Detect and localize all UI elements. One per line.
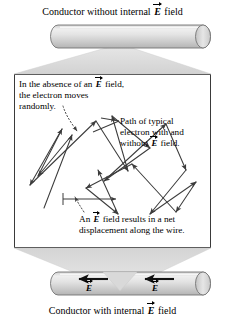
netdisp-line1-a: An: [79, 214, 93, 224]
field-arrow-label-2: E: [151, 283, 159, 293]
net-displacement-arrow: [63, 193, 116, 205]
netdisp-line1-b: field results in a net: [100, 214, 175, 224]
vector-e-symbol-arrow2: E: [151, 283, 159, 293]
caption-bottom-prefix: Conductor with internal: [49, 305, 147, 316]
figure-vector-art: [0, 0, 225, 326]
vector-e-symbol-netdisp: E: [93, 214, 101, 225]
absence-line1-a: In the absence of an: [19, 79, 95, 89]
cylinder-end-cap-top: [196, 25, 211, 48]
vector-e-symbol-bottom: E: [147, 305, 156, 317]
path-line1: Path of typical: [120, 116, 174, 126]
absence-line3: randomly.: [19, 101, 56, 111]
caption-bottom-suffix: field: [155, 305, 176, 316]
path-line3-b: field.: [158, 138, 179, 148]
vector-e-symbol-absence: E: [95, 79, 103, 90]
annotation-typical-path: Path of typical electron with and withou…: [120, 116, 212, 149]
electron-drift-figure: Conductor without internal E field: [0, 0, 225, 326]
absence-line1-b: field,: [103, 79, 124, 89]
absence-line2: the electron moves: [19, 90, 88, 100]
cylinder-end-cap-bottom: [196, 272, 211, 295]
vector-e-symbol-path: E: [150, 138, 158, 149]
conductor-without-field: [51, 25, 211, 48]
caption-bottom: Conductor with internal E field: [0, 305, 225, 317]
funnel-top: [14, 44, 211, 74]
annotation-net-displacement: An E field results in a net displacement…: [79, 214, 209, 236]
path-line3-a: without: [120, 138, 150, 148]
conductor-with-field: [51, 272, 211, 295]
netdisp-line2: displacement along the wire.: [79, 225, 185, 235]
annotation-absence-of-field: In the absence of an E field, the electr…: [19, 79, 139, 112]
vector-e-symbol-arrow1: E: [85, 283, 93, 293]
field-arrow-label-1: E: [85, 283, 93, 293]
